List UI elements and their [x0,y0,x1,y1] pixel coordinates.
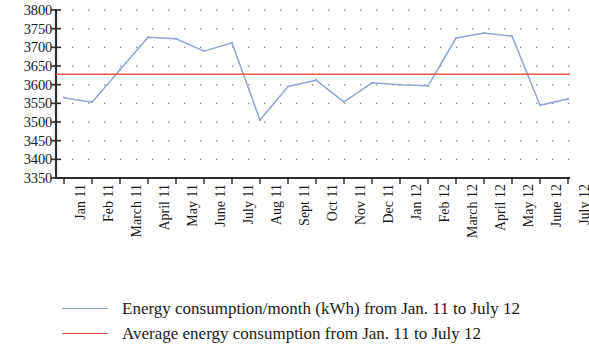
x-axis-labels: Jan 11Feb 11March 11April 11May 11June 1… [0,182,589,282]
axis-lines [51,9,570,184]
data-point [287,85,289,87]
x-tick-label: Oct 11 [316,182,330,219]
x-tick-label: April 11 [148,182,162,229]
data-point [483,32,485,34]
data-point [371,82,373,84]
line-swatch-average [62,333,108,334]
x-tick-label: Sept 11 [288,182,302,224]
x-tick-label: July 12 [568,182,582,223]
legend-label-average: Average energy consumption from Jan. 11 … [122,324,481,344]
data-point [427,85,429,87]
data-point [259,119,261,121]
x-tick-label: Jan 11 [64,182,78,218]
legend-label-series: Energy consumption/month (kWh) from Jan.… [122,299,520,319]
data-point [231,42,233,44]
data-point [147,36,149,38]
x-tick-label: July 11 [232,182,246,222]
data-point [343,101,345,103]
energy-consumption-chart: 3350340034503500355036003650370037503800… [0,0,589,351]
x-tick-label: Aug 11 [260,182,274,223]
data-point [511,35,513,37]
x-tick-label: March 12 [456,182,470,236]
data-point [63,97,65,99]
data-point [455,37,457,39]
line-swatch-series [62,308,108,309]
x-tick-label: Feb 11 [92,182,106,220]
chart-legend: Energy consumption/month (kWh) from Jan.… [62,296,582,346]
data-point [175,38,177,40]
legend-item-series: Energy consumption/month (kWh) from Jan.… [62,296,582,321]
data-point [567,98,569,100]
series-line-energy-consumption [64,33,568,120]
plot-area [0,0,589,190]
x-tick-label: Nov 11 [344,182,358,223]
x-tick-label: March 11 [120,182,134,236]
x-tick-label: Feb 12 [428,182,442,221]
x-tick-label: June 12 [540,182,554,225]
x-tick-label: May 12 [512,182,526,225]
data-point [119,69,121,71]
legend-item-average: Average energy consumption from Jan. 11 … [62,321,582,346]
x-tick-label: April 12 [484,182,498,229]
data-point [399,84,401,86]
data-point [91,101,93,103]
data-point [203,50,205,52]
x-tick-label: May 11 [176,182,190,225]
x-tick-label: Jan 12 [400,182,414,218]
data-point [315,79,317,81]
x-tick-label: Dec 11 [372,182,386,222]
x-tick-label: June 11 [204,182,218,225]
data-point [539,104,541,106]
